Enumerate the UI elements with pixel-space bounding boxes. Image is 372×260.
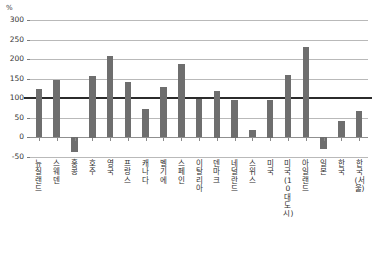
gridline--50 [30, 157, 368, 158]
bar [196, 99, 203, 137]
bar [338, 121, 345, 137]
plot-area: 300250200150100500-50 [30, 20, 368, 157]
y-axis-tick-label: 250 [2, 36, 24, 44]
y-axis-tick-label: 100 [2, 94, 24, 102]
x-axis-tick-mark [75, 138, 76, 141]
x-axis-tick-mark [341, 138, 342, 141]
x-axis-tick-mark [270, 138, 271, 141]
y-axis-tick-mark [27, 157, 30, 158]
bars [30, 20, 368, 157]
x-axis-category-label: 미국(10대 도시) [283, 160, 292, 219]
x-axis-category-label: 영국 [106, 160, 115, 177]
x-axis-tick-mark [128, 138, 129, 141]
x-axis-tick-mark [306, 138, 307, 141]
y-axis-tick-label: 50 [2, 114, 24, 122]
x-axis-tick-mark [39, 138, 40, 141]
x-axis-tick-mark [252, 138, 253, 141]
x-axis-category-labels: 뉴질랜드스웨덴홍콩호주영국프랑스캐나다벨기에스페인이탈리아덴마크네덜란드스위스미… [30, 160, 368, 258]
x-axis-category-label: 아일랜드 [301, 160, 310, 194]
bar [214, 91, 221, 138]
bar [89, 76, 96, 138]
x-axis-category-label: 캐나다 [141, 160, 150, 185]
x-axis-tick-mark [146, 138, 147, 141]
x-axis-category-label: 벨기에 [159, 160, 168, 185]
x-axis-category-label: 미국 [266, 160, 275, 177]
x-axis-category-label: 호주 [88, 160, 97, 177]
x-axis-category-label: 홍콩 [70, 160, 79, 177]
bar [249, 130, 256, 138]
x-axis-category-label: 덴마크 [212, 160, 221, 185]
y-axis-tick-label: -50 [2, 153, 24, 161]
x-axis-category-label: 네덜란드 [230, 160, 239, 194]
bar [142, 109, 149, 138]
x-axis-tick-mark [163, 138, 164, 141]
bar [231, 100, 238, 138]
x-axis-category-label: 이탈리아 [195, 160, 204, 194]
x-axis-tick-mark [92, 138, 93, 141]
bar [107, 56, 114, 137]
x-axis-category-label: 한국(서울) [355, 160, 364, 194]
x-axis-tick-mark [181, 138, 182, 141]
bar [178, 64, 185, 137]
y-axis-tick-label: 0 [2, 133, 24, 141]
x-axis-category-label: 스위스 [248, 160, 257, 185]
y-axis-tick-label: 300 [2, 16, 24, 24]
x-axis-tick-mark [235, 138, 236, 141]
x-axis-tick-mark [324, 138, 325, 141]
x-axis-category-label: 프랑스 [123, 160, 132, 185]
bar [356, 111, 363, 138]
x-axis-category-label: 스페인 [177, 160, 186, 185]
bar [303, 47, 310, 138]
bar [36, 89, 43, 137]
y-axis-unit-label: % [6, 4, 13, 12]
bar [285, 75, 292, 138]
bar [267, 100, 274, 138]
y-axis-tick-label: 200 [2, 55, 24, 63]
x-axis-tick-mark [199, 138, 200, 141]
x-axis-tick-mark [359, 138, 360, 141]
x-axis-category-label: 일본 [319, 160, 328, 177]
bar [53, 80, 60, 138]
x-axis-category-label: 뉴질랜드 [34, 160, 43, 194]
x-axis-category-label: 한국 [337, 160, 346, 177]
x-axis-tick-mark [288, 138, 289, 141]
x-axis-tick-mark [57, 138, 58, 141]
x-axis-category-label: 스웨덴 [52, 160, 61, 185]
bar-chart: % 300250200150100500-50 뉴질랜드스웨덴홍콩호주영국프랑스… [0, 0, 372, 260]
x-axis-tick-mark [217, 138, 218, 141]
bar [160, 87, 167, 138]
bar [125, 82, 132, 137]
x-axis-tick-mark [110, 138, 111, 141]
y-axis-tick-label: 150 [2, 75, 24, 83]
